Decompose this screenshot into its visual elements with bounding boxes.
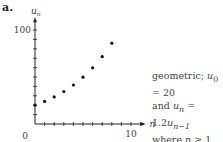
data-point	[110, 42, 113, 45]
origin-label: 0	[22, 131, 28, 141]
y-tick-label: 100	[14, 25, 31, 35]
caption-line-3: where n ≥ 1	[152, 133, 223, 142]
caption-line-1: geometric; u0 = 20	[152, 69, 223, 99]
caption-sub: n−1	[173, 122, 190, 131]
x-axis-arrow-icon	[141, 122, 146, 126]
caption-sub: 0	[213, 75, 218, 84]
data-point	[72, 83, 75, 86]
caption-line-2: and un = 1.2un−1	[152, 99, 223, 133]
data-point	[62, 90, 65, 93]
data-point	[91, 66, 94, 69]
caption-text: = 20	[152, 87, 175, 98]
caption-text: where	[152, 134, 185, 142]
x-tick-label: 10	[125, 129, 137, 139]
data-point	[33, 104, 36, 107]
caption-text: geometric;	[152, 70, 207, 81]
sequence-caption: geometric; u0 = 20 and un = 1.2un−1 wher…	[152, 69, 223, 142]
y-axis-label: un	[31, 6, 41, 17]
data-point	[43, 100, 46, 103]
data-point	[53, 95, 56, 98]
caption-text: ≥ 1	[191, 134, 211, 142]
data-point	[101, 55, 104, 58]
caption-text: and	[152, 100, 173, 111]
data-point	[81, 76, 84, 79]
y-axis-arrow-icon	[33, 17, 37, 22]
